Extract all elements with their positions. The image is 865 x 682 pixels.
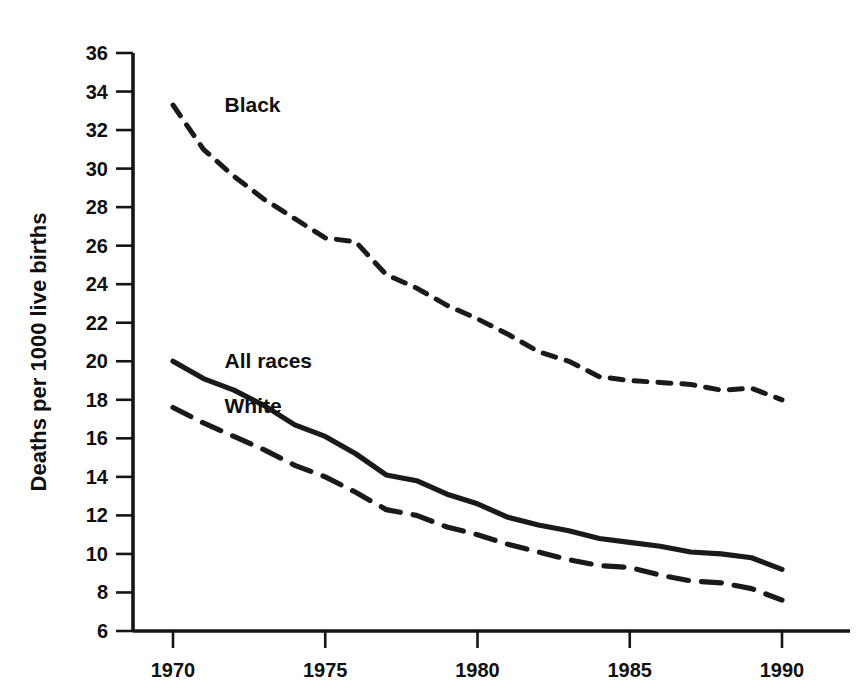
y-tick-label: 28 [86,196,108,218]
x-tick-label: 1990 [760,659,805,681]
y-tick-label: 12 [86,504,108,526]
y-tick-label: 26 [86,235,108,257]
y-tick-label: 36 [86,42,108,64]
series-label-all-races: All races [224,349,312,372]
infant-mortality-chart: Deaths per 1000 live births 681012141618… [0,0,865,682]
x-tick-marks [173,631,782,648]
y-tick-label: 24 [86,273,109,295]
x-tick-label: 1980 [455,659,500,681]
series-label-black: Black [224,93,280,116]
y-tick-label: 16 [86,427,108,449]
series-annotations: BlackAll racesWhite [224,93,312,417]
y-tick-label: 14 [86,466,109,488]
y-tick-label: 30 [86,158,108,180]
x-tick-label: 1985 [608,659,653,681]
x-tick-labels: 19701975198019851990 [151,659,805,681]
y-axis: 681012141618202224262830323436 [86,42,133,642]
y-tick-label: 22 [86,312,108,334]
y-tick-label: 10 [86,543,108,565]
y-tick-label: 34 [86,81,109,103]
y-axis-label: Deaths per 1000 live births [26,213,51,492]
x-axis: 19701975198019851990 [133,631,850,681]
series-label-white: White [224,394,281,417]
y-tick-labels: 681012141618202224262830323436 [86,42,109,642]
x-tick-label: 1970 [151,659,196,681]
y-tick-label: 32 [86,119,108,141]
y-tick-label: 18 [86,389,108,411]
y-tick-label: 20 [86,350,108,372]
y-tick-marks [116,53,133,631]
x-tick-label: 1975 [303,659,348,681]
series-line-all-races [173,361,782,569]
y-tick-label: 6 [97,620,108,642]
chart-plot-area: Deaths per 1000 live births 681012141618… [0,0,865,682]
y-tick-label: 8 [97,581,108,603]
